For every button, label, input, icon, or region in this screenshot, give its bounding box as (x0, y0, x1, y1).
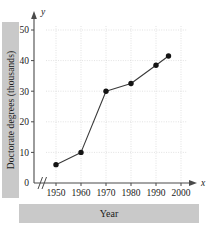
data-point-1950 (53, 162, 58, 167)
tick-label-y-30: 30 (20, 87, 30, 97)
tick-label-y-0: 0 (24, 178, 29, 188)
tick-label-y-50: 50 (20, 25, 30, 35)
y-axis-variable: y (40, 7, 46, 17)
x-axis-variable: x (200, 178, 206, 188)
x-axis-arrow (189, 180, 197, 186)
data-points (53, 53, 171, 167)
data-line (56, 56, 169, 165)
tick-label-y-20: 20 (20, 117, 30, 127)
chart-plot-area: 01020304050195019601970198019902000 yx (0, 0, 211, 225)
tick-label-x-2000: 2000 (172, 188, 191, 198)
tick-label-x-1950: 1950 (47, 188, 66, 198)
data-point-1960 (78, 150, 83, 155)
tick-label-x-1960: 1960 (72, 188, 91, 198)
data-point-1995 (166, 53, 171, 58)
data-point-1980 (128, 81, 133, 86)
tick-labels: 01020304050195019601970198019902000 (20, 25, 191, 197)
tick-label-y-10: 10 (20, 148, 30, 158)
chart-figure: Doctorate degrees (thousands) Year 01020… (0, 0, 211, 225)
tick-label-x-1990: 1990 (147, 188, 166, 198)
data-point-1970 (103, 89, 108, 94)
tick-label-y-40: 40 (20, 56, 30, 66)
data-point-1990 (153, 62, 158, 67)
tick-label-x-1980: 1980 (122, 188, 141, 198)
y-axis-arrow (31, 11, 37, 19)
tick-label-x-1970: 1970 (97, 188, 116, 198)
data-polyline (56, 56, 169, 165)
